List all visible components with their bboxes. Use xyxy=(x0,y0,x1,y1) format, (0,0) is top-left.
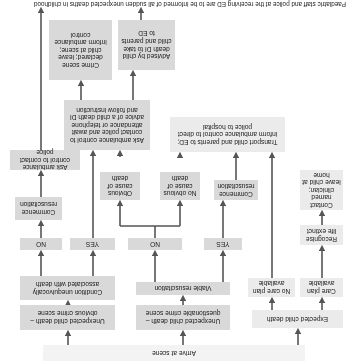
node-arrive-at-scene: Arrive at scene xyxy=(43,345,305,361)
node-no-right: NO xyxy=(20,238,62,250)
node-ask-control-contact-police: Ask ambulance control to contact police xyxy=(10,150,80,170)
node-condition-unequivocal: Condition unequivocally associated with … xyxy=(20,276,115,300)
node-yes-middle: YES xyxy=(204,238,242,250)
node-ask-control-await-di: Ask ambulance control to contact police … xyxy=(64,100,150,150)
node-recognise-life-extinct: Recognise life extinct xyxy=(300,225,343,245)
node-transport-to-ed: Transport child and parents to ED; infor… xyxy=(170,117,285,152)
node-no-middle: NO xyxy=(128,238,182,250)
node-contact-named-clinician: Contact named clinician; leave child at … xyxy=(300,170,343,210)
node-advised-by-di: Advised by child death DI to take child … xyxy=(118,20,175,70)
node-yes-right: YES xyxy=(70,238,115,250)
node-viable-resuscitation: Viable resuscitation xyxy=(136,282,230,295)
node-no-obvious-cause: No obvious cause of death xyxy=(160,172,200,200)
node-obvious-cause: Obvious cause of death xyxy=(100,172,140,200)
node-care-plan-available: Care plan available xyxy=(300,278,343,297)
node-unexpected-obvious: Unexpected child death – obvious crime s… xyxy=(20,305,115,330)
flowchart-canvas: Arrive at scene Expected child death Une… xyxy=(0,0,346,362)
footer-caption: Paediatric staff and police at the recei… xyxy=(0,0,346,8)
node-commence-resuscitation-middle: Commence resuscitation xyxy=(214,180,258,200)
node-expected-child-death: Expected child death xyxy=(252,310,343,328)
node-no-care-plan-available: No care plan available xyxy=(248,278,295,297)
node-crime-scene-declared: Crime scene declared; leave child at sce… xyxy=(49,20,112,80)
node-commence-resuscitation-right: Commence resuscitation xyxy=(15,197,62,220)
node-unexpected-questionable: Unexpected child death – questionable cr… xyxy=(136,305,230,330)
